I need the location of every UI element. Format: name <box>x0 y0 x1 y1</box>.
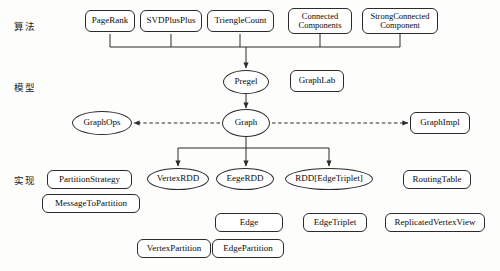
node-graphops[interactable]: GraphOps <box>72 111 132 135</box>
node-label-graphops: GraphOps <box>84 118 121 127</box>
node-label-svdplusplus: SVDPlusPlus <box>146 16 195 25</box>
node-graphlab[interactable]: GraphLab <box>290 70 344 92</box>
node-label-eegerdd: EegeRDD <box>227 174 264 183</box>
node-messagetopartition[interactable]: MessageToPartition <box>42 194 140 213</box>
node-connectedcomponents[interactable]: Connected Components <box>288 8 352 34</box>
node-vertexrdd[interactable]: VertexRDD <box>147 168 209 190</box>
layer-label-implementation: 实现 <box>14 173 35 187</box>
node-label-pagerank: PageRank <box>92 16 129 25</box>
node-svdplusplus[interactable]: SVDPlusPlus <box>140 10 202 32</box>
node-label-edgepartition: EdgePartition <box>223 244 273 253</box>
node-partitionstrategy[interactable]: PartitionStrategy <box>47 170 132 189</box>
node-vertexpartition[interactable]: VertexPartition <box>137 239 211 258</box>
node-label-messagetopartition: MessageToPartition <box>55 199 127 208</box>
diagram-canvas: 算法 模型 实现 PageRankSVDPlusPlusTriengleCoun… <box>0 0 500 271</box>
node-replicatedvertexview[interactable]: ReplicatedVertexView <box>385 213 485 232</box>
node-trienglecount[interactable]: TriengleCount <box>207 10 274 32</box>
node-graphimpl[interactable]: GraphImpl <box>410 112 470 134</box>
node-label-strongconnectedcomponent: StrongConnected Component <box>370 12 429 30</box>
node-label-vertexrdd: VertexRDD <box>157 174 200 183</box>
node-label-vertexpartition: VertexPartition <box>147 244 202 253</box>
node-pregel[interactable]: Pregel <box>223 70 269 94</box>
node-label-graph: Graph <box>235 118 258 127</box>
node-label-connectedcomponents: Connected Components <box>299 12 342 30</box>
node-label-pregel: Pregel <box>235 77 258 86</box>
node-label-graphimpl: GraphImpl <box>420 118 460 127</box>
layer-label-algorithm: 算法 <box>14 19 35 33</box>
node-label-partitionstrategy: PartitionStrategy <box>59 175 120 184</box>
node-label-graphlab: GraphLab <box>299 76 335 85</box>
node-label-edge: Edge <box>240 218 259 227</box>
layer-label-model: 模型 <box>14 80 35 94</box>
node-edgetriplet[interactable]: EdgeTriplet <box>303 213 367 232</box>
node-graph[interactable]: Graph <box>222 109 270 137</box>
connector-group <box>110 34 408 166</box>
node-label-edgetriplet: EdgeTriplet <box>314 218 357 227</box>
node-label-rddedgetriplet: RDD[EdgeTriplet] <box>295 174 363 183</box>
node-edgepartition[interactable]: EdgePartition <box>212 239 284 258</box>
node-strongconnectedcomponent[interactable]: StrongConnected Component <box>362 8 438 34</box>
node-label-trienglecount: TriengleCount <box>214 16 266 25</box>
node-routingtable[interactable]: RoutingTable <box>403 170 471 189</box>
node-eegerdd[interactable]: EegeRDD <box>216 168 274 190</box>
node-edge[interactable]: Edge <box>215 213 283 232</box>
node-rddedgetriplet[interactable]: RDD[EdgeTriplet] <box>285 168 373 190</box>
node-label-routingtable: RoutingTable <box>413 175 462 184</box>
node-label-replicatedvertexview: ReplicatedVertexView <box>395 218 476 227</box>
node-pagerank[interactable]: PageRank <box>85 10 135 32</box>
